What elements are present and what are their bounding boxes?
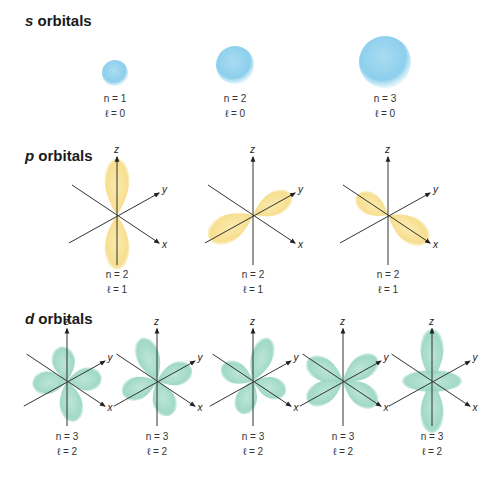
p-orbital-x: zxy <box>340 144 439 265</box>
d-n-label: n = 3 <box>127 431 187 442</box>
d-l-label: ℓ = 2 <box>127 446 187 457</box>
p-l-label: ℓ = 1 <box>223 284 283 295</box>
d-l-label: ℓ = 2 <box>313 446 373 457</box>
d-n-label: n = 3 <box>313 431 373 442</box>
d-orbital-dx2y2: zxy <box>300 316 390 426</box>
x-axis-label: x <box>297 239 304 250</box>
p-l-label: ℓ = 1 <box>87 284 147 295</box>
z-axis-label: z <box>63 316 69 327</box>
p-l-label: ℓ = 1 <box>358 284 418 295</box>
z-axis-label: z <box>249 316 255 327</box>
s-l-label: ℓ = 0 <box>205 108 265 119</box>
x-axis-label: x <box>472 402 479 413</box>
y-axis-label: y <box>297 184 304 195</box>
d-l-label: ℓ = 2 <box>402 446 462 457</box>
y-axis-label: y <box>293 352 300 363</box>
z-axis-label: z <box>428 316 434 327</box>
s-l-label: ℓ = 0 <box>355 108 415 119</box>
x-axis-label: x <box>161 239 168 250</box>
s-n-label: n = 1 <box>85 93 145 104</box>
d-n-label: n = 3 <box>37 431 97 442</box>
p-orbital-z: zxy <box>69 144 168 270</box>
z-axis-label: z <box>113 144 119 155</box>
d-l-label: ℓ = 2 <box>223 446 283 457</box>
orbital-diagram: zxyzxyzxyzxyzxyzxyzxyzxy <box>0 0 501 481</box>
z-axis-label: z <box>339 316 345 327</box>
x-axis-label: x <box>293 402 300 413</box>
d-orbital-dxy: zxy <box>24 316 114 426</box>
d-orbital-dxz: zxy <box>210 316 300 426</box>
z-axis-label: z <box>249 144 255 155</box>
s-n-label: n = 2 <box>205 93 265 104</box>
z-axis-label: z <box>153 316 159 327</box>
d-n-label: n = 3 <box>223 431 283 442</box>
p-n-label: n = 2 <box>358 269 418 280</box>
y-axis-label: y <box>472 352 479 363</box>
y-axis-label: y <box>197 352 204 363</box>
x-axis-label: x <box>107 402 114 413</box>
d-l-label: ℓ = 2 <box>37 446 97 457</box>
s-n-label: n = 3 <box>355 93 415 104</box>
d-orbital-dyz: zxy <box>114 316 204 426</box>
p-orbital-y: zxy <box>202 144 304 265</box>
s-orbital-1 <box>102 60 128 86</box>
x-axis-label: x <box>432 239 439 250</box>
s-l-label: ℓ = 0 <box>85 108 145 119</box>
x-axis-label: x <box>197 402 204 413</box>
y-axis-label: y <box>107 352 114 363</box>
z-axis-label: z <box>384 144 390 155</box>
p-n-label: n = 2 <box>223 269 283 280</box>
d-n-label: n = 3 <box>402 431 462 442</box>
y-axis-label: y <box>161 184 168 195</box>
y-axis-label: y <box>432 184 439 195</box>
d-orbital-dz2: zxy <box>389 316 479 433</box>
y-axis-label: y <box>383 352 390 363</box>
x-axis-label: x <box>383 402 390 413</box>
p-n-label: n = 2 <box>87 269 147 280</box>
s-orbital-2 <box>216 46 254 84</box>
s-orbital-3 <box>359 36 411 88</box>
